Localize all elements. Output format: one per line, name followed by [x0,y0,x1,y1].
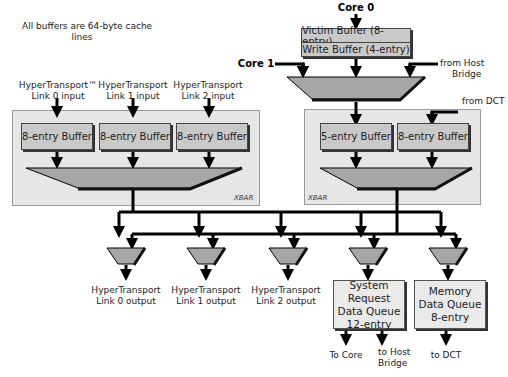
ht-link2-output-label: HyperTransport Link 2 output [246,285,326,307]
sri-l1: System [338,279,401,292]
sri-l3: Data Queue [338,305,401,318]
note-line-1: All buffers are 64-byte cache [22,21,142,32]
ht-link1-output-label: HyperTransport Link 1 output [166,285,246,307]
five-entry-buffer: 5-entry Buffer [320,123,392,150]
left-xbar-mux [26,168,242,188]
ht1-buffer: 8-entry Buffer [99,123,171,150]
to-host-l2: Bridge [378,358,410,369]
memory-data-queue: Memory Data Queue 8-entry [414,280,486,329]
ht1-in-l1: HyperTransport [93,80,173,91]
dct-input-label: from DCT [462,96,505,107]
ht2-out-l1: HyperTransport [246,285,326,296]
host-bridge-line1: from Host [440,58,484,69]
ht1-in-l2: Link 1 input [93,91,173,102]
note-line-2: lines [22,32,142,43]
ht0-buffer: 8-entry Buffer [21,123,93,150]
victim-buffer: Victim Buffer (8-entry) [301,28,411,43]
system-request-data-queue: System Request Data Queue 12-entry [333,280,405,329]
ht0-in-l1: HyperTransport™ [18,80,98,91]
ht2-buffer: 8-entry Buffer [176,123,248,150]
ht2-in-l2: Link 2 input [168,91,248,102]
sri-l4: 12-entry [338,318,401,331]
mem-l1: Memory [419,285,482,298]
right-xbar-mux [320,168,472,188]
ht0-out-l2: Link 0 output [86,296,166,307]
left-xbar-label: XBAR [234,194,253,202]
host-bridge-input-label: from Host Bridge [440,58,484,80]
to-dct-label: to DCT [426,350,466,361]
to-host-l1: to Host [378,347,410,358]
ht0-in-l2: Link 0 input [18,91,98,102]
mem-l3: 8-entry [419,311,482,324]
ht2-out-l2: Link 2 output [246,296,326,307]
ht-link2-input-label: HyperTransport Link 2 input [168,80,248,102]
dct-buffer: 8-entry Buffer [397,123,469,150]
cache-line-note: All buffers are 64-byte cache lines [22,21,142,43]
write-buffer: Write Buffer (4-entry) [301,42,411,57]
to-core-label: To Core [326,350,366,361]
host-bridge-line2: Bridge [440,69,484,80]
ht0-out-l1: HyperTransport [86,285,166,296]
core1-label: Core 1 [236,58,276,69]
ht2-in-l1: HyperTransport [168,80,248,91]
sri-l2: Request [338,292,401,305]
mem-l2: Data Queue [419,298,482,311]
ht-link0-output-label: HyperTransport Link 0 output [86,285,166,307]
ht1-out-l2: Link 1 output [166,296,246,307]
core0-label: Core 0 [336,2,376,13]
ht-link1-input-label: HyperTransport Link 1 input [93,80,173,102]
to-host-bridge-label: to Host Bridge [378,347,410,369]
ht1-out-l1: HyperTransport [166,285,246,296]
ht-link0-input-label: HyperTransport™ Link 0 input [18,80,98,102]
right-xbar-label: XBAR [308,194,327,202]
